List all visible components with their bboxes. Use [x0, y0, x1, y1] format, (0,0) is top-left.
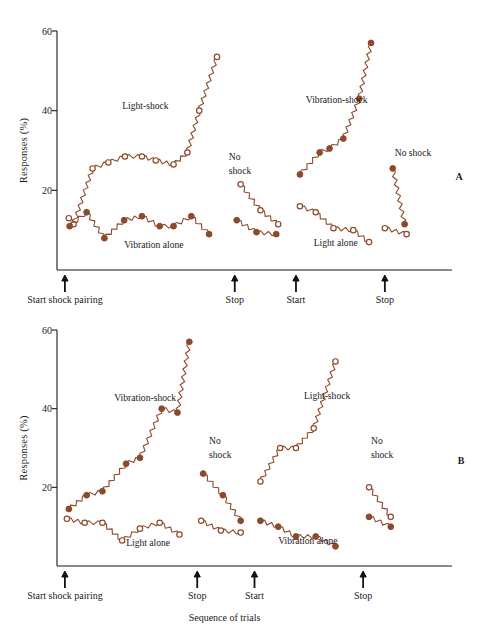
data-point-open [331, 225, 336, 230]
data-point-open [122, 154, 127, 159]
data-point-filled [121, 217, 127, 223]
data-point-open [218, 528, 223, 533]
y-tick-label-a-40: 40 [42, 105, 52, 116]
data-point-filled [220, 492, 226, 498]
annotation-a-1: Vibration alone [124, 239, 183, 250]
data-point-open [139, 154, 144, 159]
data-point-open [388, 514, 393, 519]
data-point-open [333, 359, 338, 364]
data-point-open [238, 530, 243, 535]
data-point-filled [368, 40, 374, 46]
annotation-b-4: Light-shock [304, 390, 351, 401]
data-point-open [404, 231, 409, 236]
data-point-filled [200, 471, 206, 477]
data-point-filled [186, 339, 192, 345]
annotation-a-3: shock [229, 165, 252, 176]
data-point-open [197, 108, 202, 113]
data-point-filled [234, 217, 240, 223]
data-point-filled [254, 229, 260, 235]
y-axis-title-b: Responses (%) [18, 415, 30, 481]
arrow-head-icon [62, 571, 68, 577]
x-marker-label-b-2: Start [245, 590, 264, 601]
arrow-head-icon [232, 275, 238, 281]
series-b-3 [198, 518, 243, 535]
data-point-open [100, 520, 105, 525]
data-point-open [119, 538, 124, 543]
data-point-open [106, 160, 111, 165]
data-point-open [153, 158, 158, 163]
data-point-filled [258, 518, 264, 524]
data-point-filled [139, 213, 145, 219]
y-tick-label-b-20: 20 [42, 482, 52, 493]
data-point-open [171, 162, 176, 167]
data-point-filled [206, 231, 212, 237]
x-marker-label-b-1: Stop [188, 590, 206, 601]
data-point-open [351, 227, 356, 232]
data-point-filled [317, 150, 323, 156]
figure-root: 204060Responses (%)AStart shock pairingS… [0, 0, 497, 641]
arrow-head-icon [382, 275, 388, 281]
data-point-filled [327, 146, 333, 152]
annotation-a-5: Light alone [314, 237, 358, 248]
data-point-open [90, 166, 95, 171]
x-marker-label-a-0: Start shock pairing [27, 294, 103, 305]
data-point-open [137, 526, 142, 531]
data-point-open [185, 150, 190, 155]
data-point-filled [123, 461, 129, 467]
y-axis-title-a: Responses (%) [18, 118, 30, 184]
panel-letter-b: B [458, 455, 465, 466]
y-tick-label-b-60: 60 [42, 325, 52, 336]
x-marker-b-1: Stop [188, 571, 206, 601]
x-marker-b-3: Stop [354, 571, 372, 601]
x-marker-label-a-1: Stop [226, 294, 244, 305]
x-marker-label-b-3: Stop [354, 590, 372, 601]
data-point-filled [388, 524, 394, 530]
annotation-b-5: Vibration alone [278, 535, 337, 546]
series-a-3 [234, 217, 279, 237]
chart-panel-b: 204060Responses (%)BStart shock pairingS… [18, 325, 465, 624]
data-point-open [311, 426, 316, 431]
data-point-filled [100, 488, 106, 494]
series-line-4 [300, 43, 371, 174]
arrow-head-icon [194, 571, 200, 577]
data-point-filled [159, 406, 165, 412]
data-point-filled [67, 223, 73, 229]
data-point-open [366, 239, 371, 244]
panel-letter-a: A [455, 171, 463, 182]
annotation-a-0: Light-shock [122, 100, 169, 111]
data-point-filled [238, 518, 244, 524]
data-point-open [293, 445, 298, 450]
x-marker-label-a-2: Start [287, 294, 306, 305]
data-point-filled [84, 209, 90, 215]
arrow-head-icon [62, 275, 68, 281]
chart-panel-a: 204060Responses (%)AStart shock pairingS… [18, 26, 463, 306]
annotation-b-0: Vibration-shock [114, 392, 176, 403]
data-point-open [277, 445, 282, 450]
series-a-2 [238, 182, 281, 227]
data-point-open [64, 516, 69, 521]
series-a-0 [66, 54, 220, 227]
x-marker-a-3: Stop [376, 275, 394, 305]
annotation-b-1: Light alone [126, 537, 170, 548]
data-point-filled [188, 213, 194, 219]
x-marker-label-a-3: Stop [376, 294, 394, 305]
x-marker-a-2: Start [287, 275, 306, 305]
x-axis-title: Sequence of trials [189, 612, 261, 623]
data-point-open [198, 518, 203, 523]
data-point-open [82, 520, 87, 525]
data-point-open [214, 54, 219, 59]
data-point-open [157, 520, 162, 525]
data-point-filled [175, 410, 181, 416]
arrow-head-icon [251, 571, 257, 577]
data-point-filled [171, 223, 177, 229]
data-point-open [177, 532, 182, 537]
data-point-open [366, 485, 371, 490]
arrow-head-icon [293, 275, 299, 281]
x-marker-b-2: Start [245, 571, 264, 601]
y-tick-label-a-60: 60 [42, 26, 52, 37]
series-a-4 [297, 40, 374, 177]
data-point-open [258, 208, 263, 213]
data-point-filled [66, 506, 72, 512]
series-b-2 [200, 471, 243, 524]
data-point-filled [402, 221, 408, 227]
